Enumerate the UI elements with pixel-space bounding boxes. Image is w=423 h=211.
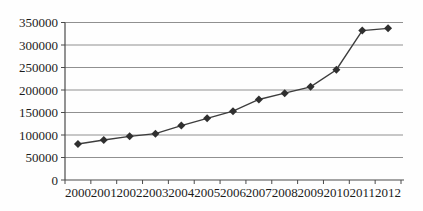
line-chart-figure: 0500001000001500002000002500003000003500… bbox=[0, 0, 423, 211]
x-tick-label: 2006 bbox=[220, 185, 247, 200]
y-tick-label: 250000 bbox=[19, 60, 58, 75]
x-tick-label: 2008 bbox=[272, 185, 298, 200]
y-tick-label: 350000 bbox=[19, 15, 58, 30]
y-tick-label: 300000 bbox=[19, 38, 58, 53]
x-tick-label: 2010 bbox=[323, 185, 349, 200]
y-tick-label: 50000 bbox=[26, 150, 59, 165]
y-tick-label: 0 bbox=[52, 173, 59, 188]
x-tick-label: 2009 bbox=[298, 185, 324, 200]
x-tick-label: 2004 bbox=[168, 185, 195, 200]
x-tick-label: 2011 bbox=[349, 185, 375, 200]
y-tick-label: 100000 bbox=[19, 128, 58, 143]
x-tick-label: 2012 bbox=[375, 185, 401, 200]
x-tick-label: 2005 bbox=[194, 185, 220, 200]
x-tick-label: 2007 bbox=[246, 185, 273, 200]
x-tick-label: 2000 bbox=[65, 185, 91, 200]
x-tick-label: 2002 bbox=[117, 185, 143, 200]
y-tick-label: 200000 bbox=[19, 83, 58, 98]
x-tick-label: 2001 bbox=[91, 185, 117, 200]
y-tick-label: 150000 bbox=[19, 105, 58, 120]
x-tick-label: 2003 bbox=[142, 185, 168, 200]
chart-svg: 0500001000001500002000002500003000003500… bbox=[0, 0, 423, 211]
